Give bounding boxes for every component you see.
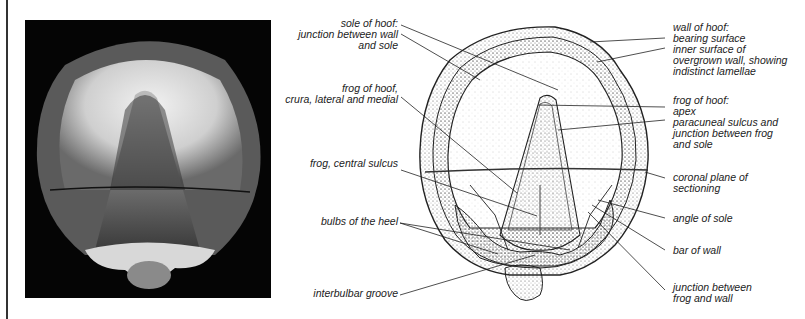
label-bulbs-of-heel: bulbs of the heel	[270, 216, 398, 227]
label-angle-of-sole: angle of sole	[673, 213, 733, 224]
label-frog-apex: frog of hoof: apex paracuneal sulcus and…	[673, 95, 778, 150]
label-bar-of-wall: bar of wall	[673, 245, 721, 256]
label-sole-of-hoof: sole of hoof: junction between wall and …	[270, 18, 398, 51]
label-frog-central-sulcus: frog, central sulcus	[270, 158, 398, 169]
label-junction-frog-wall: junction between frog and wall	[673, 282, 752, 304]
label-frog-crura: frog of hoof, crura, lateral and medial	[270, 83, 398, 105]
label-wall-of-hoof: wall of hoof: bearing surface inner surf…	[673, 22, 787, 77]
label-coronal-plane: coronal plane of sectioning	[673, 172, 748, 194]
label-interbulbar-groove: interbulbar groove	[270, 288, 398, 299]
